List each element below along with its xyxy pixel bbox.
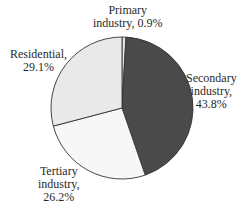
label-secondary-line3: 43.8%	[186, 98, 237, 111]
label-residential: Residential, 29.1%	[10, 48, 67, 74]
label-tertiary-line3: 26.2%	[38, 191, 80, 204]
label-tertiary: Tertiary industry, 26.2%	[38, 165, 80, 204]
label-residential-line2: 29.1%	[10, 61, 67, 74]
label-primary: Primary industry, 0.9%	[93, 4, 163, 30]
label-secondary: Secondary industry, 43.8%	[186, 72, 237, 111]
label-primary-line2: industry, 0.9%	[93, 17, 163, 30]
pie-slices	[51, 37, 193, 179]
